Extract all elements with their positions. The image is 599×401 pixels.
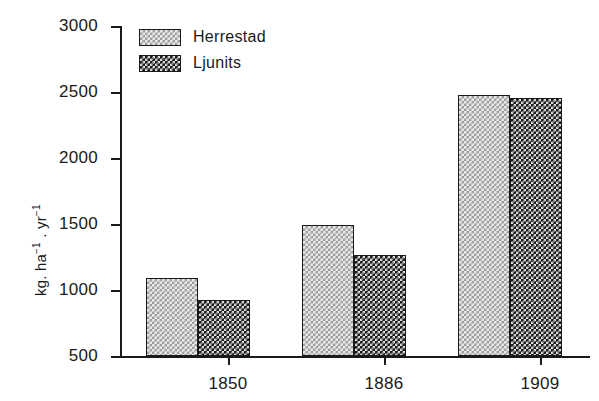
bar-herrestad-1850	[146, 278, 198, 356]
y-tick-label-2500: 2500	[59, 82, 98, 102]
y-tick-label-2000: 2000	[59, 148, 98, 168]
legend-swatch-ljunits	[139, 55, 181, 72]
x-axis-line	[120, 356, 590, 358]
y-axis-title-exponent-1: −1	[31, 242, 42, 254]
x-tick-label-1850: 1850	[208, 374, 247, 394]
bar-herrestad-1909	[458, 95, 510, 356]
y-axis-title-mid: . yr	[32, 216, 49, 242]
y-tick-label-500: 500	[69, 346, 98, 366]
x-tick-1850	[228, 356, 230, 365]
x-tick-label-1909: 1909	[520, 374, 559, 394]
legend-label-ljunits: Ljunits	[193, 54, 241, 72]
bar-ljunits-1909	[510, 98, 562, 356]
y-tick-2500: 2500	[111, 92, 120, 94]
x-tick-1886	[384, 356, 386, 365]
y-axis-title-exponent-2: −1	[31, 204, 42, 216]
y-tick-2000: 2000	[111, 158, 120, 160]
bar-chart-figure: kg. ha−1 . yr−1 500 1000 1500 2000 2500 …	[0, 0, 599, 401]
bar-herrestad-1886	[302, 225, 354, 356]
legend-swatch-herrestad	[139, 29, 181, 46]
bar-ljunits-1886	[354, 255, 406, 356]
y-tick-1500: 1500	[111, 224, 120, 226]
y-axis-line	[120, 26, 122, 357]
bar-ljunits-1850	[198, 300, 250, 356]
y-tick-3000: 3000	[111, 26, 120, 28]
y-tick-500: 500	[111, 356, 120, 358]
x-tick-1909	[540, 356, 542, 365]
legend-item-ljunits: Ljunits	[139, 50, 266, 76]
y-axis-title-text: kg. ha−1 . yr−1	[32, 204, 49, 296]
y-axis-title-prefix: kg. ha	[32, 254, 49, 296]
legend-label-herrestad: Herrestad	[193, 28, 266, 46]
y-tick-label-1000: 1000	[59, 280, 98, 300]
y-tick-1000: 1000	[111, 290, 120, 292]
y-tick-label-1500: 1500	[59, 214, 98, 234]
y-tick-label-3000: 3000	[59, 16, 98, 36]
legend-item-herrestad: Herrestad	[139, 24, 266, 50]
legend: Herrestad Ljunits	[139, 24, 266, 76]
x-tick-label-1886: 1886	[364, 374, 403, 394]
y-axis-title: kg. ha−1 . yr−1	[8, 120, 38, 300]
